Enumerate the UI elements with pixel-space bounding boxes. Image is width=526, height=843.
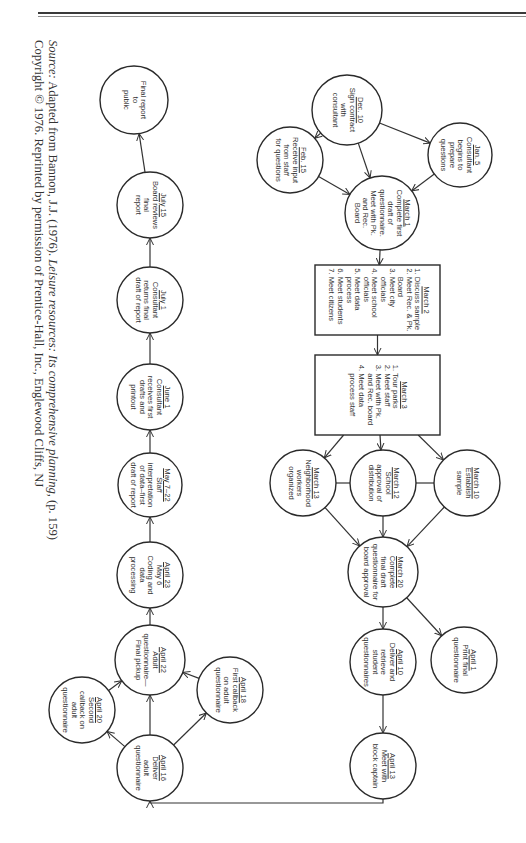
- node-line: draft of: [386, 189, 394, 237]
- node-line: Final report: [138, 81, 146, 119]
- node-line: from staff: [282, 137, 290, 183]
- node-line: questionnaire: [213, 667, 221, 713]
- node-date: March 2: [420, 268, 429, 331]
- node-date: March 12: [391, 464, 399, 502]
- node-line: receives first: [146, 376, 154, 419]
- node-date: March 20: [396, 544, 404, 601]
- node-line: sample: [454, 467, 462, 499]
- node-line: Meet with Pk.: [369, 189, 377, 237]
- node-line: of data–first: [137, 462, 145, 508]
- node-date: April 16: [158, 745, 166, 791]
- node-line: Board: [353, 189, 361, 237]
- node-line: Complete: [387, 544, 395, 601]
- edge-dec10-feb15: [315, 133, 321, 138]
- edge-april16-april20: [107, 731, 125, 746]
- node-line: returns final: [142, 277, 150, 323]
- node-line: Deliver: [150, 745, 158, 791]
- node-line: Neighborhood: [303, 459, 311, 507]
- node-line: questions: [439, 137, 447, 173]
- node-line: consultant: [330, 88, 338, 132]
- node-date: April 1: [468, 637, 476, 683]
- box-item: officials: [378, 268, 387, 331]
- edge-july15-final: [139, 134, 145, 173]
- node-line: on adult: [222, 667, 230, 713]
- node-march10: March 10Establishsample: [454, 467, 479, 499]
- edge-april18-april22: [183, 672, 199, 678]
- node-line: board approval: [362, 544, 370, 601]
- node-line: for questions: [273, 137, 281, 183]
- node-line: May 6: [154, 556, 162, 595]
- node-line: Consultant: [464, 137, 472, 173]
- node-line: questionnaire: [451, 637, 459, 683]
- node-jan5: Jan. 5Consultantbegins topreparequestion…: [439, 137, 481, 173]
- node-april10: April 10Deliver andretrievestudentquesti…: [362, 637, 404, 686]
- node-line: adult: [142, 745, 150, 791]
- node-line: report: [133, 181, 141, 229]
- edge-dec10-march1: [358, 143, 370, 178]
- node-feb15: Feb. 15Receive inputfrom stafffor questi…: [273, 137, 307, 183]
- edge-jan5-march1: [412, 174, 435, 191]
- node-line: Receive input: [290, 137, 298, 183]
- node-line: block captain: [370, 744, 378, 788]
- edge-april13-april16: [150, 799, 383, 803]
- node-line: adult: [69, 687, 77, 733]
- node-april20: April 20Secondcallback onadultquestionna…: [61, 687, 103, 733]
- node-april22: April 22Adultquestionnaire—Final pickup: [133, 633, 167, 686]
- node-july15: July 15Board reviewsfinalreport: [133, 181, 167, 229]
- node-date: April 13: [387, 744, 395, 788]
- node-line: to: [130, 81, 138, 119]
- edge-march3-march10: [418, 435, 443, 460]
- node-line: Adult: [150, 633, 158, 686]
- edge-march1-march2: [379, 250, 380, 265]
- box-item: process staff: [347, 365, 356, 425]
- node-line: data: [137, 556, 145, 595]
- node-march1: March 1Complete firstdraft ofquestionnai…: [353, 189, 412, 237]
- node-date: April 20: [95, 687, 103, 733]
- node-final: Final reporttopublic: [121, 81, 146, 119]
- node-date: July 1: [158, 277, 166, 323]
- node-line: and Rec.: [361, 189, 369, 237]
- node-line: Board reviews: [150, 181, 158, 229]
- node-line: Meet with: [379, 744, 387, 788]
- node-line: Print final: [460, 637, 468, 683]
- node-date: March 10: [471, 467, 479, 499]
- edge-feb15-march1: [319, 176, 350, 194]
- node-july1: July 1Consultantreturns finaldraft of re…: [133, 277, 167, 323]
- edge-march3-march12: [380, 435, 381, 450]
- node-date: May 7–22: [163, 462, 171, 508]
- node-line: Sign contract: [347, 88, 355, 132]
- node-line: Consultant: [150, 277, 158, 323]
- node-date: March 1: [403, 189, 411, 237]
- node-line: questionnaires: [362, 637, 370, 686]
- node-line: with: [339, 88, 347, 132]
- node-line: Deliver and: [387, 637, 395, 686]
- box-item: 7. Meet citizens: [326, 268, 335, 331]
- node-date: March 3: [399, 365, 408, 425]
- node-line: public: [121, 81, 129, 119]
- node-april13: April 13Meet withblock captain: [370, 744, 395, 788]
- edge-march3-march13: [324, 435, 343, 458]
- node-line: questionnaire: [61, 687, 69, 733]
- node-line: School: [383, 464, 391, 502]
- node-line: First callback: [230, 667, 238, 713]
- node-march2: March 21. Discuss sample2. Meet Rec. & P…: [326, 268, 429, 331]
- node-line: Coding and: [146, 556, 154, 595]
- node-line: organized: [286, 459, 294, 507]
- node-line: Complete first: [395, 189, 403, 237]
- node-line: printout: [129, 376, 137, 419]
- node-line: retrieve: [379, 637, 387, 686]
- node-april1: April 1Print finalquestionnaire: [451, 637, 476, 683]
- node-line: Consultant: [154, 376, 162, 419]
- edge-march20-april1: [407, 598, 442, 636]
- box-item: 4. Meet data: [356, 365, 365, 425]
- node-line: Second: [86, 687, 94, 733]
- node-line: questionnaire.: [378, 189, 386, 237]
- node-date: March 13: [311, 459, 319, 507]
- node-line: questionnaire for: [370, 544, 378, 601]
- node-april16: April 16Deliveradultquestionnaire: [133, 745, 167, 791]
- node-line: callback on: [78, 687, 86, 733]
- node-april23: April 23May 6Coding anddataprocessing: [129, 556, 171, 595]
- edge-march10-march20: [407, 507, 444, 547]
- node-line: workers: [295, 459, 303, 507]
- node-april18: April 18First callbackon adultquestionna…: [213, 667, 247, 713]
